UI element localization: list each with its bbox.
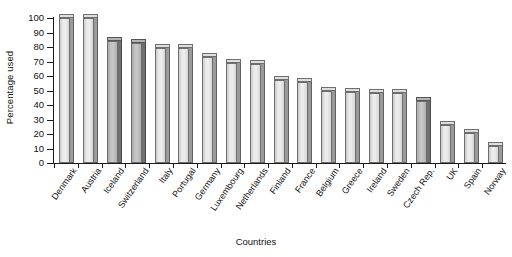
bar	[202, 53, 217, 163]
y-axis-tick-label: 100	[12, 13, 44, 23]
bar-side-face	[118, 38, 122, 163]
bar	[250, 60, 265, 163]
x-axis-line	[53, 163, 506, 164]
bar-front-face	[464, 133, 475, 163]
y-axis-tick	[47, 149, 53, 150]
bar-side-face	[356, 89, 360, 163]
bar	[155, 44, 170, 163]
bar	[226, 59, 241, 163]
bar	[440, 121, 455, 163]
bar-top-face	[250, 60, 265, 64]
y-axis-tick-label: 60	[12, 71, 44, 81]
bar-front-face	[202, 57, 213, 163]
bar-front-face	[297, 82, 308, 163]
bar-top-face	[464, 129, 479, 133]
bar-front-face	[392, 93, 403, 163]
bar-front-face	[83, 18, 94, 163]
bar-front-face	[416, 101, 427, 163]
bar-side-face	[94, 15, 98, 163]
x-axis-label-text: UK	[444, 166, 459, 182]
bar-side-face	[70, 15, 74, 163]
y-axis-tick-label: 80	[12, 42, 44, 52]
bar-side-face	[166, 45, 170, 163]
y-axis-tick	[47, 47, 53, 48]
bar-top-face	[440, 121, 455, 125]
y-axis-tick-label: 10	[12, 144, 44, 154]
x-axis-label-text: Belgium	[314, 166, 341, 198]
y-axis-tick	[47, 120, 53, 121]
y-axis-tick	[47, 76, 53, 77]
bar	[416, 97, 431, 163]
bar-side-face	[261, 61, 265, 163]
x-axis-label-text: Austria	[79, 166, 103, 195]
bar-side-face	[451, 122, 455, 163]
x-axis-label-text: Finland	[268, 166, 293, 196]
bar	[59, 14, 74, 163]
bar-top-face	[83, 14, 98, 18]
bar	[107, 37, 122, 163]
bar-chart-figure: Percentage used 0102030405060708090100 D…	[0, 0, 512, 257]
bar-top-face	[178, 44, 193, 48]
bar-side-face	[308, 79, 312, 163]
x-axis-label-text: Spain	[462, 166, 483, 191]
bar-top-face	[155, 44, 170, 48]
y-axis-tick-label: 30	[12, 115, 44, 125]
y-axis-tick	[47, 33, 53, 34]
bar-front-face	[59, 18, 70, 163]
y-axis-tick	[47, 134, 53, 135]
bar	[345, 88, 360, 163]
y-axis-line	[53, 17, 54, 164]
y-axis-tick-label: 70	[12, 57, 44, 67]
bar	[488, 142, 503, 163]
y-axis-tick	[47, 163, 53, 164]
bar	[392, 89, 407, 163]
bar-side-face	[142, 40, 146, 163]
bar-side-face	[427, 98, 431, 163]
bar-side-face	[499, 143, 503, 163]
x-axis-title-text: Countries	[236, 236, 277, 247]
bar-front-face	[440, 125, 451, 163]
bar-top-face	[202, 53, 217, 57]
x-axis-label-text: Italy	[157, 166, 175, 185]
bar-front-face	[250, 64, 261, 163]
bar-front-face	[155, 48, 166, 163]
x-axis-title: Countries	[0, 236, 512, 247]
bar	[274, 76, 289, 163]
bar-top-face	[226, 59, 241, 63]
bar-top-face	[345, 88, 360, 92]
bar-front-face	[107, 41, 118, 163]
bar-side-face	[285, 77, 289, 163]
bar	[131, 39, 146, 163]
bar	[83, 14, 98, 163]
y-axis-tick-label: 50	[12, 86, 44, 96]
bar-side-face	[380, 90, 384, 163]
bar-front-face	[131, 43, 142, 163]
bar-front-face	[321, 91, 332, 164]
x-axis-label-text: Iceland	[102, 166, 127, 196]
bar-top-face	[274, 76, 289, 80]
bar-front-face	[274, 80, 285, 163]
bar-front-face	[178, 48, 189, 163]
bar	[369, 89, 384, 163]
bar-top-face	[297, 78, 312, 82]
bar-side-face	[213, 54, 217, 163]
x-axis-label-text: France	[293, 166, 317, 195]
x-axis-labels: DenmarkAustriaIcelandSwitzerlandItalyPor…	[54, 166, 506, 230]
x-axis-label-text: Ireland	[364, 166, 388, 194]
bar-side-face	[237, 60, 241, 163]
bar-top-face	[321, 87, 336, 91]
bar-front-face	[488, 146, 499, 163]
y-axis-tick	[47, 105, 53, 106]
bar-top-face	[369, 89, 384, 93]
y-axis-tick	[47, 18, 53, 19]
bar-top-face	[59, 14, 74, 18]
y-axis-tick-label: 40	[12, 100, 44, 110]
bar-top-face	[488, 142, 503, 146]
y-axis-tick-label: 20	[12, 129, 44, 139]
bar-front-face	[369, 93, 380, 163]
bar	[321, 87, 336, 164]
bar-top-face	[107, 37, 122, 41]
bar-top-face	[131, 39, 146, 43]
y-axis-tick	[47, 62, 53, 63]
bar-side-face	[475, 130, 479, 163]
